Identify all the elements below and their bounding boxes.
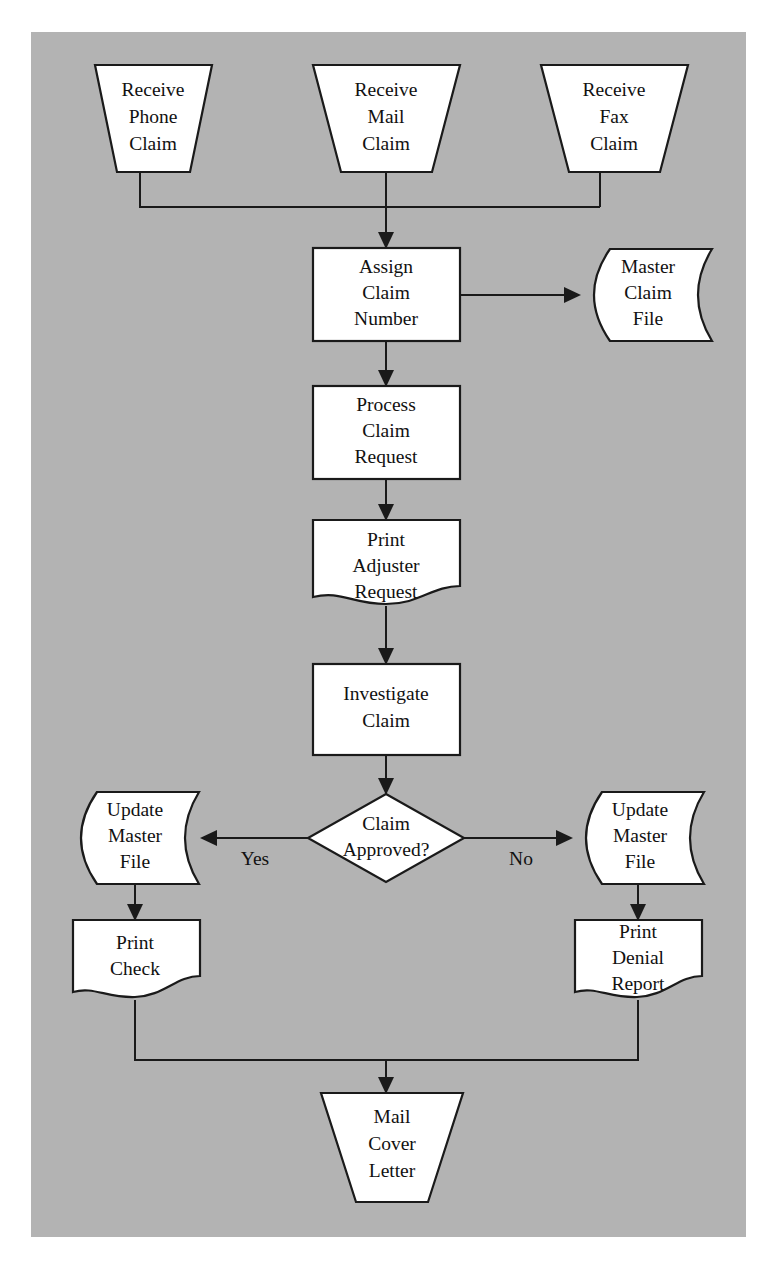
node-process-claim-request[interactable]: Process Claim Request	[313, 386, 460, 479]
print-denial-report-label-line-2: Denial	[612, 947, 665, 968]
mail-cover-letter-label-line-1: Mail	[374, 1106, 411, 1127]
flowchart-root: Receive Phone Claim Receive Mail Claim R…	[0, 0, 775, 1266]
receive-mail-claim-label-line-2: Mail	[368, 106, 405, 127]
master-claim-file-label-line-3: File	[633, 308, 663, 329]
edge-label-yes: Yes	[241, 848, 269, 869]
investigate-claim-label-line-2: Claim	[362, 710, 410, 731]
receive-phone-claim-label-line-1: Receive	[122, 79, 185, 100]
receive-mail-claim-label-line-1: Receive	[355, 79, 418, 100]
print-denial-report-label-line-3: Report	[611, 973, 665, 994]
process-claim-request-label-line-3: Request	[355, 446, 418, 467]
process-claim-request-label-line-2: Claim	[362, 420, 410, 441]
update-master-file-no-label-line-1: Update	[612, 799, 668, 820]
receive-fax-claim-label-line-1: Receive	[583, 79, 646, 100]
mail-cover-letter-label-line-2: Cover	[368, 1133, 416, 1154]
update-master-file-yes-label-line-3: File	[120, 851, 150, 872]
node-master-claim-file[interactable]: Master Claim File	[594, 249, 712, 341]
print-adjuster-request-label-line-2: Adjuster	[352, 555, 420, 576]
update-master-file-yes-label-line-2: Master	[108, 825, 163, 846]
update-master-file-no-label-line-2: Master	[613, 825, 668, 846]
node-investigate-claim[interactable]: Investigate Claim	[313, 664, 460, 755]
master-claim-file-label-line-1: Master	[621, 256, 676, 277]
edge-label-no: No	[509, 848, 533, 869]
receive-fax-claim-label-line-3: Claim	[590, 133, 638, 154]
investigate-claim-label-line-1: Investigate	[343, 683, 429, 704]
receive-fax-claim-label-line-2: Fax	[599, 106, 629, 127]
receive-phone-claim-label-line-3: Claim	[129, 133, 177, 154]
update-master-file-no-label-line-3: File	[625, 851, 655, 872]
print-check-label-line-2: Check	[110, 958, 160, 979]
print-denial-report-label-line-1: Print	[619, 921, 658, 942]
master-claim-file-label-line-2: Claim	[624, 282, 672, 303]
update-master-file-yes-label-line-1: Update	[107, 799, 163, 820]
claim-approved-decision-label-line-2: Approved?	[343, 839, 430, 860]
node-update-master-file-no[interactable]: Update Master File	[586, 792, 704, 884]
mail-cover-letter-label-line-3: Letter	[369, 1160, 416, 1181]
receive-mail-claim-label-line-3: Claim	[362, 133, 410, 154]
node-assign-claim-number[interactable]: Assign Claim Number	[313, 248, 460, 341]
receive-phone-claim-label-line-2: Phone	[129, 106, 178, 127]
flowchart-canvas: Receive Phone Claim Receive Mail Claim R…	[0, 0, 775, 1266]
print-adjuster-request-label-line-3: Request	[355, 581, 418, 602]
node-update-master-file-yes[interactable]: Update Master File	[81, 792, 199, 884]
assign-claim-number-label-line-2: Claim	[362, 282, 410, 303]
assign-claim-number-label-line-3: Number	[354, 308, 418, 329]
claim-approved-decision-label-line-1: Claim	[362, 813, 410, 834]
process-claim-request-label-line-1: Process	[356, 394, 416, 415]
print-check-label-line-1: Print	[116, 932, 155, 953]
assign-claim-number-label-line-1: Assign	[359, 256, 413, 277]
print-adjuster-request-label-line-1: Print	[367, 529, 406, 550]
